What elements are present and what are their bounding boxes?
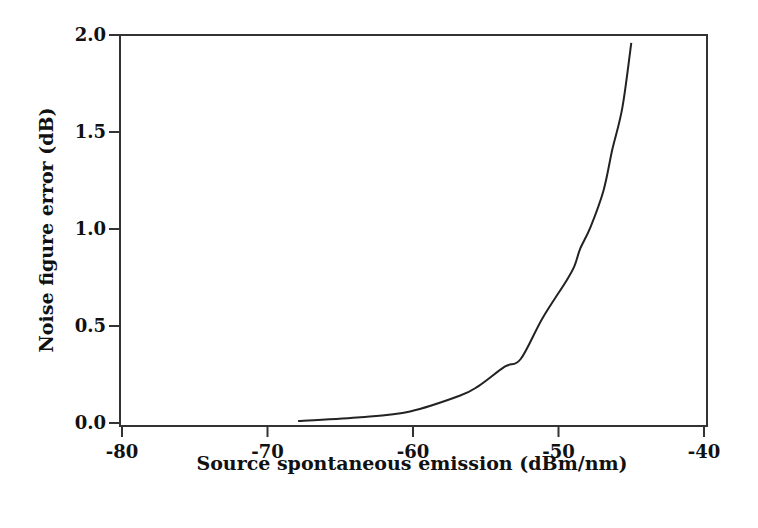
noise-figure-error-curve — [298, 43, 631, 421]
chart: 0.00.51.01.52.0 -80-70-60-50-40 Source s… — [0, 0, 758, 528]
plot-border — [120, 35, 707, 426]
y-tick-label: 1.0 — [75, 218, 106, 239]
y-tick-label: 1.5 — [75, 121, 106, 142]
y-axis-title: Noise figure error (dB) — [35, 107, 57, 352]
y-tick-label: 0.0 — [75, 412, 106, 433]
y-tick-label: 2.0 — [75, 24, 106, 45]
y-axis-ticks: 0.00.51.01.52.0 — [75, 24, 120, 433]
x-tick-label: -40 — [688, 441, 721, 462]
x-tick-label: -80 — [106, 441, 139, 462]
y-tick-label: 0.5 — [75, 315, 106, 336]
x-axis-title: Source spontaneous emission (dBm/nm) — [196, 452, 627, 474]
plot-frame — [120, 35, 707, 426]
